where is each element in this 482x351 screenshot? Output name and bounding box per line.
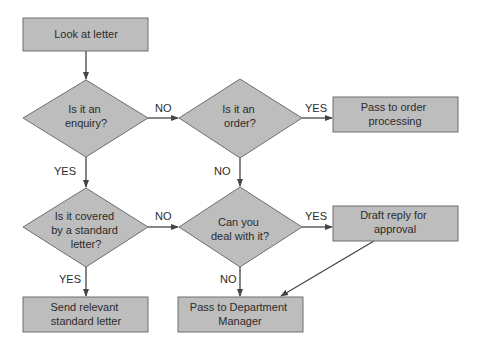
label-deal-no: NO (220, 273, 237, 285)
edge-draft-manager (281, 241, 374, 296)
label-standard-yes: YES (59, 273, 81, 285)
label-deal-yes: YES (305, 210, 327, 222)
flowchart: Look at letter Is it an enquiry? Is it a… (0, 0, 482, 351)
node-look-text: Look at letter (54, 28, 118, 40)
label-enquiry-yes: YES (54, 165, 76, 177)
label-order-yes: YES (305, 102, 327, 114)
label-order-no: NO (214, 165, 231, 177)
label-standard-no: NO (155, 210, 172, 222)
label-enquiry-no: NO (155, 102, 172, 114)
